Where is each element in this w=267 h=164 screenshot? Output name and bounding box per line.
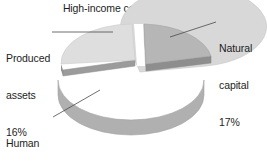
slice-produced-assets-top xyxy=(61,24,135,64)
label-natural-capital-line2: capital xyxy=(219,79,252,91)
label-natural-capital-line1: Natural xyxy=(219,42,252,54)
label-human-resources: Human resources 67% xyxy=(6,113,51,164)
label-natural-capital: Natural capital 17% xyxy=(219,18,252,152)
label-human-resources-line1: Human xyxy=(6,137,51,149)
label-produced-assets-line2: assets xyxy=(6,89,50,101)
slice-human-resources-side xyxy=(58,80,204,135)
pie-chart-figure: High-income countries (79.6%) xyxy=(0,0,267,164)
label-natural-capital-value: 17% xyxy=(219,116,252,128)
label-produced-assets-line1: Produced xyxy=(6,52,50,64)
slice-produced-assets-side-left xyxy=(61,64,63,76)
